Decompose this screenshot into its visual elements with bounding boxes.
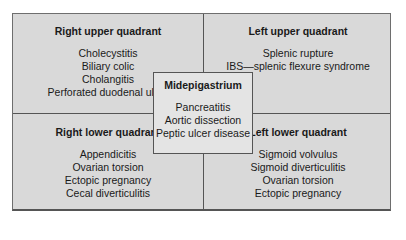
diagnosis-item: Pancreatitis bbox=[154, 101, 252, 114]
midepigastrium-box: Midepigastrium Pancreatitis Aortic disse… bbox=[153, 72, 253, 154]
diagnosis-item: Ectopic pregnancy bbox=[204, 187, 392, 200]
left-upper-quadrant: Left upper quadrant Splenic rupture IBS—… bbox=[204, 25, 392, 73]
diagnosis-item: Ovarian torsion bbox=[13, 161, 203, 174]
quadrant-title: Left upper quadrant bbox=[204, 25, 392, 37]
quadrant-title: Right upper quadrant bbox=[13, 25, 203, 37]
diagnosis-item: Splenic rupture bbox=[204, 47, 392, 60]
diagnosis-item: Peptic ulcer disease bbox=[154, 127, 252, 140]
diagnosis-item: Aortic dissection bbox=[154, 114, 252, 127]
diagnosis-item: Cholecystitis bbox=[13, 47, 203, 60]
diagnosis-item: Ovarian torsion bbox=[204, 174, 392, 187]
diagnosis-item: Ectopic pregnancy bbox=[13, 174, 203, 187]
center-title: Midepigastrium bbox=[154, 79, 252, 91]
diagnosis-item: Sigmoid diverticulitis bbox=[204, 161, 392, 174]
diagnosis-item: Cecal diverticulitis bbox=[13, 187, 203, 200]
